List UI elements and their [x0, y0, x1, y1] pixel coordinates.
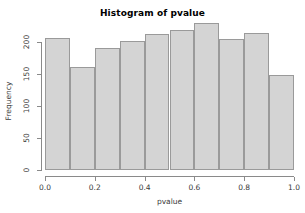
y-tick-mark [37, 74, 41, 75]
histogram-bar [219, 39, 244, 170]
y-tick-label-text: 200 [22, 35, 31, 49]
x-tick-label: 0.0 [39, 183, 51, 192]
x-tick-label: 0.2 [89, 183, 101, 192]
x-tick-label: 1.0 [288, 183, 300, 192]
y-tick-mark [37, 138, 41, 139]
x-tick-mark [145, 177, 146, 181]
x-tick-mark [95, 177, 96, 181]
histogram-bar [120, 41, 145, 170]
histogram-bar [170, 30, 195, 170]
histogram-bar [95, 48, 120, 170]
y-tick-label: 50 [18, 133, 34, 143]
histogram-bar [244, 33, 269, 170]
histogram-plot: Histogram of pvalue 050100150200 0.00.20… [0, 0, 305, 213]
y-axis-line [41, 42, 42, 171]
x-tick-label: 0.6 [188, 183, 200, 192]
y-tick-label-text: 0 [22, 168, 31, 173]
x-tick-mark [45, 177, 46, 181]
histogram-bars [45, 30, 294, 170]
y-tick-label-text: 100 [22, 99, 31, 113]
y-axis-title-text: Frequency [4, 82, 13, 121]
y-tick-label: 100 [18, 101, 34, 111]
y-tick-mark [37, 106, 41, 107]
chart-title: Histogram of pvalue [0, 8, 305, 18]
x-tick-mark [194, 177, 195, 181]
plot-area [45, 30, 294, 170]
y-tick-label-text: 50 [22, 133, 31, 143]
x-tick-label: 0.8 [238, 183, 250, 192]
y-tick-label: 0 [18, 165, 34, 175]
histogram-bar [45, 38, 70, 170]
y-axis-title: Frequency [2, 56, 14, 146]
histogram-bar [269, 75, 294, 170]
x-axis-title: pvalue [45, 197, 294, 206]
y-tick-mark [37, 42, 41, 43]
y-tick-label: 200 [18, 37, 34, 47]
x-tick-mark [294, 177, 295, 181]
histogram-bar [70, 67, 95, 170]
x-axis-line [45, 176, 294, 177]
histogram-bar [194, 23, 219, 170]
x-tick-mark [244, 177, 245, 181]
y-tick-label: 150 [18, 69, 34, 79]
y-tick-mark [37, 170, 41, 171]
x-tick-label: 0.4 [139, 183, 151, 192]
histogram-bar [145, 34, 170, 170]
y-tick-label-text: 150 [22, 67, 31, 81]
